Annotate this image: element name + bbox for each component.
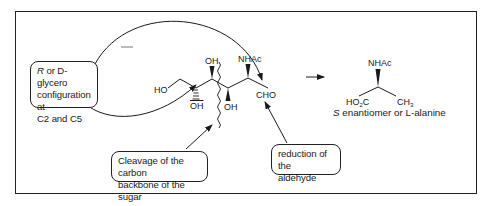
product-caption: S enantiomer or L-alanine xyxy=(333,107,446,118)
callout-configuration: R or D-glycero configuration at C2 and C… xyxy=(30,61,98,108)
label-ho-left: HO xyxy=(154,85,168,95)
config-text-2: configuration at xyxy=(37,89,91,113)
reduction-text-1: reduction of the xyxy=(278,148,334,172)
ho2c-end: C xyxy=(363,97,370,107)
ho2c-main: HO xyxy=(346,97,360,107)
caption-text: enantiomer or L-alanine xyxy=(340,107,446,118)
italic-r: R xyxy=(37,65,44,76)
curved-arrow-to-c2 xyxy=(95,21,262,80)
wedge-bond-nhac xyxy=(246,64,251,78)
wedge-bond-oh-top xyxy=(210,66,215,79)
label-oh-bottom-right: OH xyxy=(224,102,238,112)
wedge-bond-product-nhac xyxy=(376,69,381,87)
arrow-reduction xyxy=(265,102,287,143)
reduction-text-2: aldehyde xyxy=(278,172,334,184)
callout-cleavage: Cleavage of the carbon backbone of the s… xyxy=(111,151,208,182)
curved-arrow-to-c5 xyxy=(88,85,196,116)
ch3-main: CH xyxy=(397,97,410,107)
sugar-skeleton xyxy=(168,78,268,88)
arrow-cleavage xyxy=(186,125,212,149)
alanine-skeleton xyxy=(359,87,396,96)
hashed-bond xyxy=(193,90,200,99)
wedge-bond-oh-bottom xyxy=(226,88,231,101)
label-oh-top: OH xyxy=(205,56,219,66)
label-cho: CHO xyxy=(256,90,276,100)
wavy-cleavage-line xyxy=(218,62,221,128)
callout-reduction: reduction of the aldehyde xyxy=(271,144,341,175)
label-nhac-sugar: NHAc xyxy=(238,54,262,64)
cleavage-text-1: Cleavage of the carbon xyxy=(118,155,201,179)
label-nhac-product: NHAc xyxy=(368,58,392,68)
label-oh-bottom-left: OH xyxy=(190,101,204,111)
cleavage-text-2: backbone of the sugar xyxy=(118,179,201,203)
config-text-3: C2 and C5 xyxy=(37,113,91,125)
diagram-canvas: R or D-glycero configuration at C2 and C… xyxy=(0,0,492,206)
